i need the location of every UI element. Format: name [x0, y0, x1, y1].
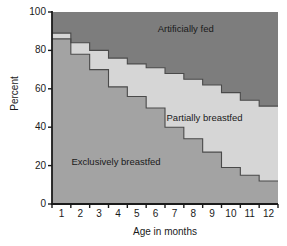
x-tick-label: 3	[89, 208, 109, 219]
y-tick-label: 100	[18, 7, 46, 17]
y-axis-title: Percent	[9, 64, 20, 124]
x-axis-title: Age in months	[52, 226, 278, 237]
x-tick-label: 11	[240, 208, 260, 219]
x-tick-label: 9	[202, 208, 222, 219]
annotation-exclusively-breastfed: Exclusively breastfed	[0, 156, 260, 167]
annotation-artificially-fed: Artificially fed	[42, 23, 287, 34]
y-tick-label: 0	[18, 199, 46, 209]
x-tick-label: 5	[127, 208, 147, 219]
annotation-partially-breastfed: Partially breastfed	[61, 112, 287, 123]
x-tick-label: 2	[70, 208, 90, 219]
x-tick-label: 10	[221, 208, 241, 219]
x-tick-label: 7	[164, 208, 184, 219]
x-tick-label: 4	[108, 208, 128, 219]
y-tick-label: 60	[18, 84, 46, 94]
y-tick-label: 40	[18, 122, 46, 132]
x-tick-label: 8	[183, 208, 203, 219]
x-tick-label: 12	[259, 208, 279, 219]
y-tick-label: 80	[18, 45, 46, 55]
breastfeeding-area-chart: 100 80 60 40 20 0 123456789101112 Percen…	[0, 0, 287, 246]
x-tick-label: 6	[146, 208, 166, 219]
x-tick-label: 1	[51, 208, 71, 219]
